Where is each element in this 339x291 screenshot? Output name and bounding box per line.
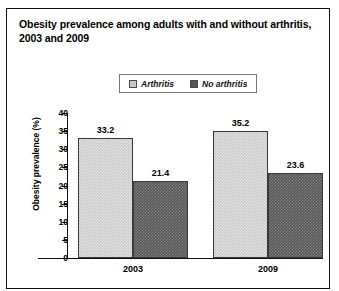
- x-axis-line: [38, 258, 323, 259]
- y-tick-25: 25: [36, 167, 68, 168]
- bar-value-2003-arthritis: 33.2: [78, 125, 133, 135]
- y-tick-label-35: 35: [46, 126, 68, 136]
- y-tick-label-5: 5: [46, 235, 68, 245]
- y-axis-title: Obesity prevalence (%): [31, 89, 41, 239]
- bar-value-2009-arthritis: 35.2: [213, 118, 268, 128]
- bar-value-2003-no-arthritis: 21.4: [133, 168, 188, 178]
- y-tick-label-10: 10: [46, 217, 68, 227]
- bar-value-2009-no-arthritis: 23.6: [268, 160, 323, 170]
- y-tick-0: 0: [36, 258, 68, 259]
- y-tick-label-30: 30: [46, 144, 68, 154]
- y-tick-10: 10: [36, 222, 68, 223]
- bar-2003-no-arthritis[interactable]: [133, 181, 188, 258]
- plot-area: Obesity prevalence (%) 40 35 30 25 20 15: [7, 9, 330, 289]
- bar-2009-arthritis[interactable]: [213, 131, 268, 258]
- x-tick-label-2009: 2009: [213, 264, 323, 274]
- y-tick-label-25: 25: [46, 162, 68, 172]
- figure-frame: Obesity prevalence among adults with and…: [6, 8, 330, 289]
- y-tick-label-40: 40: [46, 108, 68, 118]
- x-tick-label-2003: 2003: [78, 264, 188, 274]
- y-tick-15: 15: [36, 204, 68, 205]
- y-tick-label-0: 0: [46, 253, 68, 263]
- y-tick-40: 40: [36, 113, 68, 114]
- y-tick-5: 5: [36, 240, 68, 241]
- y-tick-30: 30: [36, 149, 68, 150]
- y-tick-label-15: 15: [46, 199, 68, 209]
- bar-2009-no-arthritis[interactable]: [268, 173, 323, 258]
- y-tick-35: 35: [36, 131, 68, 132]
- y-tick-label-20: 20: [46, 181, 68, 191]
- bar-2003-arthritis[interactable]: [78, 138, 133, 258]
- y-tick-20: 20: [36, 186, 68, 187]
